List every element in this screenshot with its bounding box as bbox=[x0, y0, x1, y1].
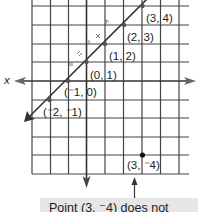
pointer-arrow bbox=[132, 177, 138, 200]
x-axis-label: x bbox=[4, 74, 10, 86]
label-3-neg4: (3, ⁻4) bbox=[127, 159, 160, 171]
coordinate-grid bbox=[0, 0, 198, 212]
label-0-1: (0, 1) bbox=[90, 69, 117, 81]
point-3-neg4 bbox=[140, 152, 145, 157]
label-3-4: (3, 4) bbox=[146, 12, 173, 24]
annotation-caption: Point (3, ⁻4) does not bbox=[40, 198, 198, 212]
label-neg2-neg1: (⁻2, ⁻1) bbox=[43, 106, 82, 118]
label-2-3: (2, 3) bbox=[127, 31, 154, 43]
label-neg1-0: (⁻1, 0) bbox=[64, 86, 97, 98]
grid-lines bbox=[32, 0, 189, 174]
label-1-2: (1, 2) bbox=[109, 50, 136, 62]
